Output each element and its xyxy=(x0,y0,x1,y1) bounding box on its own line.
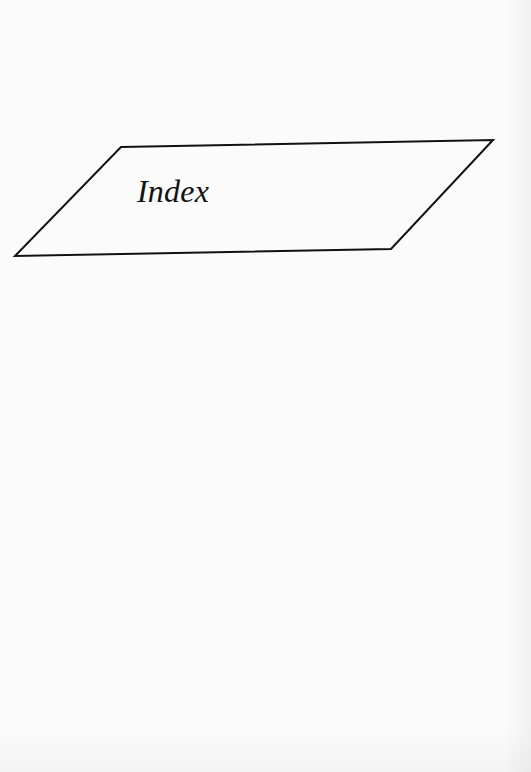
title-parallelogram-frame xyxy=(0,0,531,772)
parallelogram-shape xyxy=(15,140,493,256)
page-title: Index xyxy=(137,175,209,207)
